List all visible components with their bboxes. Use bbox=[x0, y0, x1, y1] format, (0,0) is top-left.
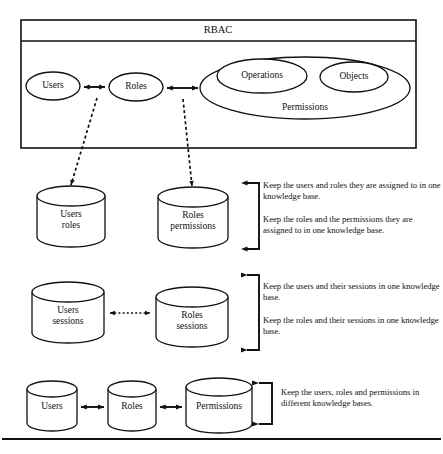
row-separate-bracket bbox=[252, 381, 272, 427]
operations-ellipse: Operations bbox=[217, 59, 307, 93]
store-label-line1: Users bbox=[60, 209, 82, 219]
store-users-sessions: Users sessions bbox=[32, 282, 104, 343]
note-assignments-users-roles: Keep the users and roles they are assign… bbox=[263, 180, 441, 201]
rbac-header-label: RBAC bbox=[204, 24, 233, 35]
row-assignments-bracket bbox=[241, 181, 259, 252]
store-roles: Roles bbox=[108, 381, 156, 431]
note-sessions-roles: Keep the roles and their sessions in one… bbox=[263, 315, 441, 336]
store-permissions: Permissions bbox=[186, 378, 252, 433]
store-label-line1: Roles bbox=[182, 210, 204, 220]
store-label-line1: Users bbox=[57, 305, 79, 315]
store-label-line1: Users bbox=[41, 401, 63, 411]
roles-permissions-store-link bbox=[183, 99, 192, 186]
row-sessions-bracket bbox=[241, 273, 259, 353]
store-roles-sessions: Roles sessions bbox=[156, 287, 228, 347]
note-sessions-users: Keep the users and their sessions in one… bbox=[263, 281, 441, 302]
store-roles-permissions: Roles permissions bbox=[158, 187, 228, 248]
note-assignments-roles-permissions: Keep the roles and the permissions they … bbox=[263, 214, 441, 235]
store-label-line1: Roles bbox=[181, 310, 203, 320]
users-ellipse: Users bbox=[26, 72, 80, 100]
store-label-line2: roles bbox=[62, 220, 81, 230]
users-roles-store-link bbox=[71, 98, 97, 185]
roles-label: Roles bbox=[125, 81, 147, 91]
roles-ellipse: Roles bbox=[109, 73, 163, 101]
permissions-label: Permissions bbox=[282, 102, 328, 112]
operations-label: Operations bbox=[241, 70, 283, 80]
store-label-line2: permissions bbox=[170, 221, 216, 231]
store-label-line2: sessions bbox=[52, 316, 83, 326]
objects-ellipse: Objects bbox=[320, 62, 388, 92]
note-separate-stores: Keep the users, roles and permissions in… bbox=[281, 387, 441, 408]
diagram-canvas: RBAC Permissions Operations Objects User… bbox=[0, 0, 443, 454]
store-label-line2: sessions bbox=[176, 321, 207, 331]
objects-label: Objects bbox=[339, 71, 368, 81]
users-label: Users bbox=[42, 80, 64, 90]
store-label-line1: Roles bbox=[121, 401, 143, 411]
store-users-roles: Users roles bbox=[37, 186, 105, 247]
store-users: Users bbox=[27, 381, 77, 431]
store-label-line1: Permissions bbox=[196, 401, 242, 411]
